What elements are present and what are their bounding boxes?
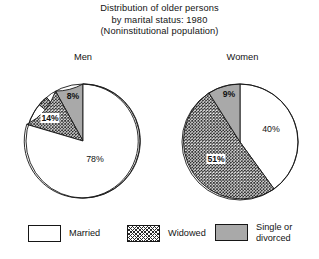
legend-label-widowed: Widowed: [168, 228, 206, 239]
legend-swatch-married-icon: [28, 225, 61, 242]
pie-women-label-single: 9%: [223, 89, 235, 99]
legend-item-single-or-divorced: Single or divorced: [215, 222, 318, 243]
legend-swatch-single-or-divorced-icon: [215, 224, 248, 241]
chart-legend: Married Widowed Single or divorced: [0, 222, 319, 256]
pie-men: [24, 84, 140, 198]
legend-label-single-or-divorced: Single or divorced: [256, 222, 318, 243]
legend-label-married: Married: [69, 228, 100, 239]
pie-chart-figure: Distribution of older persons by marital…: [0, 0, 319, 259]
legend-item-widowed: Widowed: [127, 225, 206, 242]
pie-men-label-married: 78%: [86, 154, 104, 164]
pie-women-label-widowed: 51%: [206, 154, 225, 164]
pie-men-label-single: 8%: [67, 91, 79, 101]
pie-men-label-widowed: 14%: [40, 113, 59, 123]
legend-swatch-widowed-icon: [127, 225, 160, 242]
pie-women-label-married: 40%: [262, 124, 280, 134]
pie-women: [182, 84, 298, 200]
legend-item-married: Married: [28, 225, 100, 242]
